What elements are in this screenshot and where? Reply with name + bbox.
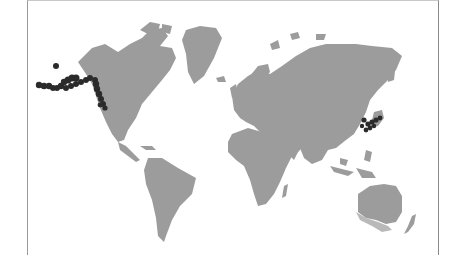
world-map: [0, 0, 452, 255]
new-zealand: [404, 214, 416, 234]
greenland: [182, 26, 222, 84]
north-america: [78, 28, 176, 142]
south-america: [144, 158, 196, 242]
